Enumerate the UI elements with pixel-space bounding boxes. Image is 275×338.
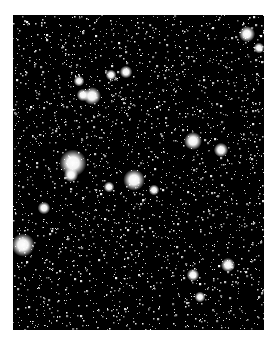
star-field-image — [13, 15, 264, 330]
star-field-canvas — [13, 15, 264, 330]
